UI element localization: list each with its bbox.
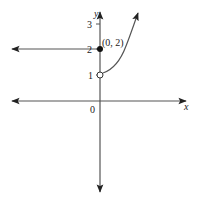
point-label: (0, 2) [102, 37, 124, 49]
graph-canvas: y x 0 3 2 1 (0, 2) [0, 0, 199, 200]
y-axis-label: y [93, 8, 99, 19]
open-point [97, 72, 103, 78]
tick-label-3: 3 [87, 19, 92, 30]
x-axis-label: x [183, 101, 189, 112]
tick-label-2: 2 [87, 44, 92, 55]
origin-label: 0 [90, 104, 95, 115]
tick-label-1: 1 [88, 70, 93, 81]
